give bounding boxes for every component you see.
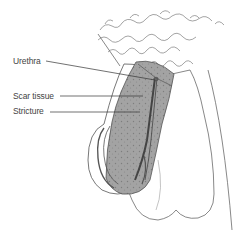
illustration	[0, 0, 242, 248]
scar-tissue-label: Scar tissue	[13, 92, 54, 101]
urethral-stricture-diagram: Urethra Scar tissue Stricture	[0, 0, 242, 248]
urethra-label: Urethra	[13, 57, 41, 66]
stricture-label: Stricture	[13, 107, 44, 116]
